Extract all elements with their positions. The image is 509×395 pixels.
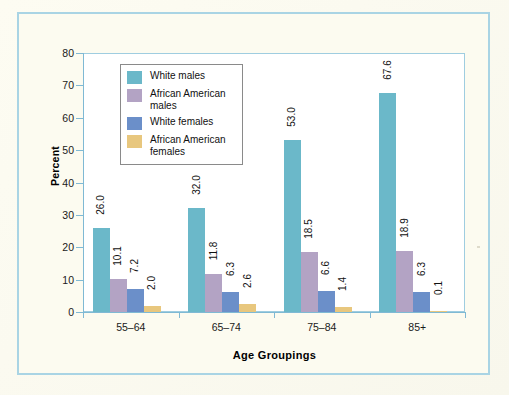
x-axis-tick [179,312,180,318]
bar-rect [335,307,352,312]
bar-value-label: 6.3 [226,262,236,276]
y-axis-title: Percent [49,106,61,226]
y-axis-tick [76,183,83,184]
chart-figure: 01020304050607080 Percent 55–6465–7475–8… [0,0,509,395]
chart-legend: White malesAfrican American malesWhite f… [120,64,243,165]
bar-value-label: 67.6 [383,60,393,79]
bar: 26.0 [93,228,110,312]
y-axis-tick [76,247,83,248]
y-axis-tick-label: 70 [34,80,74,91]
bar-rect [188,208,205,312]
scan-artifact [477,246,480,248]
y-axis-tick [76,118,83,119]
y-axis-tick [76,150,83,151]
legend-label: African American females [150,134,236,158]
legend-item: African American females [127,134,236,158]
bar-rect [318,291,335,312]
x-axis-group-label: 65–74 [186,322,266,333]
bar-rect [301,252,318,312]
bar-value-label: 18.5 [304,219,314,238]
bar-rect [284,140,301,312]
bar-rect [379,93,396,312]
bar: 2.0 [144,306,161,312]
bar: 11.8 [205,274,222,312]
bar-value-label: 2.0 [147,276,157,290]
x-axis-group-label: 75–84 [282,322,362,333]
bar-rect [396,251,413,312]
y-axis-tick [76,53,83,54]
x-axis-group-label: 85+ [377,322,457,333]
legend-item: African American males [127,88,236,112]
bar-rect [127,289,144,312]
bar-rect [413,292,430,312]
bar: 6.3 [413,292,430,312]
bar: 6.3 [222,292,239,312]
bar-value-label: 10.1 [113,247,123,266]
legend-label: White males [150,70,205,82]
bar: 32.0 [188,208,205,312]
bar-rect [430,311,447,313]
bar-value-label: 11.8 [209,241,219,260]
bar-value-label: 0.1 [434,281,444,295]
legend-swatch [127,71,142,84]
bar: 10.1 [110,279,127,312]
bar-value-label: 32.0 [192,176,202,195]
legend-swatch [127,135,142,148]
legend-item: White males [127,70,236,84]
bar-rect [93,228,110,312]
y-axis-tick-label: 0 [34,307,74,318]
legend-swatch [127,89,142,102]
bar-value-label: 7.2 [130,259,140,273]
bar-rect [222,292,239,312]
x-axis-tick [370,312,371,318]
bar-rect [205,274,222,312]
x-axis-tick [274,312,275,318]
bar-value-label: 26.0 [96,195,106,214]
y-axis-tick [76,280,83,281]
bar-rect [144,306,161,312]
bar-rect [239,304,256,312]
legend-swatch [127,117,142,130]
x-axis-tick [465,312,466,318]
bar: 7.2 [127,289,144,312]
x-axis-group-label: 55–64 [91,322,171,333]
bar: 18.5 [301,252,318,312]
y-axis-tick [76,215,83,216]
y-axis-tick [76,312,83,313]
bar: 0.1 [430,311,447,313]
legend-label: White females [150,116,213,128]
bar: 67.6 [379,93,396,312]
x-axis-title: Age Groupings [83,349,466,361]
bar: 1.4 [335,307,352,312]
bar: 2.6 [239,304,256,312]
legend-label: African American males [150,88,236,112]
bar-value-label: 1.4 [338,278,348,292]
bar: 6.6 [318,291,335,312]
bar-rect [110,279,127,312]
bar: 18.9 [396,251,413,312]
bar-value-label: 6.6 [321,261,331,275]
bar-value-label: 18.9 [400,218,410,237]
y-axis-tick-label: 10 [34,275,74,286]
bar-value-label: 53.0 [287,108,297,127]
bar: 53.0 [284,140,301,312]
x-axis-tick [83,312,84,318]
y-axis-tick-label: 20 [34,242,74,253]
bar-value-label: 2.6 [243,274,253,288]
legend-item: White females [127,116,236,130]
y-axis-tick [76,85,83,86]
y-axis-tick-label: 80 [34,48,74,59]
bar-value-label: 6.3 [417,262,427,276]
